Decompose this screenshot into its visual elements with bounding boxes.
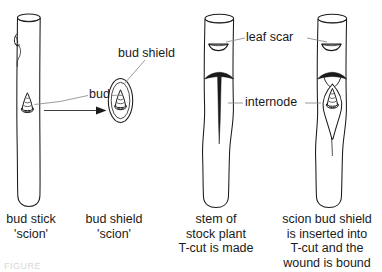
bud-shield-leader-line	[125, 60, 146, 84]
label-bud-shield: bud shield	[118, 47, 175, 60]
label-bud: bud	[89, 88, 110, 101]
figure-bottom-note: FIGURE	[4, 261, 41, 271]
stock-plant-panel	[203, 14, 234, 207]
caption-stock-plant-line2: stock plant	[165, 227, 267, 242]
caption-bud-shield-line1: bud shield	[78, 212, 150, 227]
caption-inserted: scion bud shield is inserted into T-cut …	[272, 212, 382, 270]
caption-inserted-line3: T-cut and the	[272, 241, 382, 256]
transfer-arrow	[44, 107, 107, 115]
label-internode: internode	[245, 96, 297, 109]
caption-stock-plant-line3: T-cut is made	[165, 241, 267, 256]
caption-bud-shield-line2: 'scion'	[78, 227, 150, 242]
caption-bud-stick-line1: bud stick	[0, 212, 62, 227]
bud-shield-panel	[108, 79, 132, 123]
label-leaf-scar: leaf scar	[246, 31, 293, 44]
bud-stick-panel	[14, 14, 40, 207]
caption-bud-stick: bud stick 'scion'	[0, 212, 62, 241]
bud-leader-line-right	[112, 95, 120, 96]
bud-leader-line	[35, 96, 89, 105]
caption-bud-shield: bud shield 'scion'	[78, 212, 150, 241]
caption-inserted-line4: wound is bound	[272, 256, 382, 271]
caption-inserted-line2: is inserted into	[272, 227, 382, 242]
caption-stock-plant: stem of stock plant T-cut is made	[165, 212, 267, 256]
caption-stock-plant-line1: stem of	[165, 212, 267, 227]
caption-inserted-line1: scion bud shield	[272, 212, 382, 227]
inserted-bud-panel	[316, 14, 347, 207]
caption-bud-stick-line2: 'scion'	[0, 227, 62, 242]
